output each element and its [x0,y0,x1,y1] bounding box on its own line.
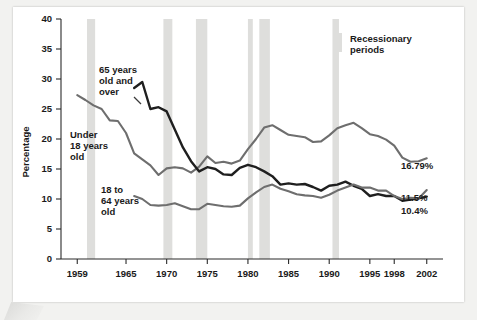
recession-band [196,19,207,259]
x-tick-label: 1959 [67,268,88,279]
legend-swatch-recession [333,33,342,52]
legend-label-line2: periods [350,44,384,55]
annotation-adults-line2: 64 years [101,195,139,206]
y-tick-label: 25 [41,103,52,114]
figure-canvas: 0510152025303540 19591965197019751980198… [0,0,477,320]
y-tick-label: 35 [41,43,52,54]
x-tick-label: 1975 [197,268,219,279]
y-tick-label: 10 [41,193,52,204]
x-tick-label: 2002 [416,268,437,279]
y-axis-title: Percentage [20,126,31,177]
end-label-under18: 16.79% [401,160,434,171]
y-tick-label: 0 [47,253,52,264]
x-tick-label: 1995 [359,268,381,279]
x-tick-label: 1970 [156,268,177,279]
annotation-adults-line1: 18 to [101,184,123,195]
x-tick-label: 1998 [384,268,405,279]
recession-band [248,19,253,259]
annotation-under18-line3: old [70,151,84,162]
annotation-adults-line3: old [101,206,115,217]
y-tick-label: 40 [41,13,52,24]
annotation-under18-line1: Under [70,129,98,140]
y-tick-label: 30 [41,73,52,84]
x-tick-label: 1965 [115,268,137,279]
annotation-over65-line3: over [99,86,119,97]
x-tick-label: 1980 [237,268,258,279]
recession-band [259,19,270,259]
page-corner-fold [4,302,44,320]
x-tick-label: 1990 [319,268,340,279]
y-tick-label: 15 [41,163,52,174]
recession-band [332,19,339,259]
y-tick-label: 20 [41,133,52,144]
y-tick-label: 5 [47,223,53,234]
annotation-over65-line2: old and [99,75,133,86]
chart-card: 0510152025303540 19591965197019751980198… [13,7,464,302]
recession-band [163,19,172,259]
poverty-rate-line-chart: 0510152025303540 19591965197019751980198… [13,7,464,302]
legend-label-line1: Recessionary [350,33,413,44]
end-label-over65: 10.4% [401,205,428,216]
x-tick-label: 1985 [278,268,300,279]
annotation-under18-line2: 18 years [70,140,108,151]
end-label-adults: 11.5% [401,192,428,203]
annotation-over65-line1: 65 years [99,64,137,75]
